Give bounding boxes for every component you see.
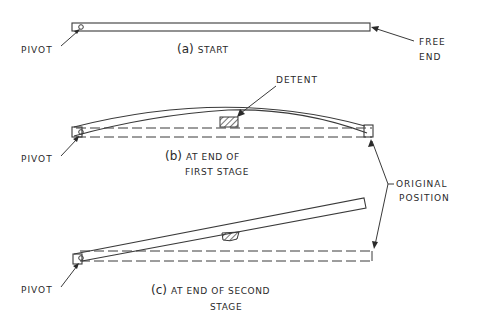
- pivot-label-b: PIVOT: [21, 153, 53, 165]
- caption-b-line2: FIRST STAGE: [185, 166, 249, 179]
- caption-b-text: AT END OF: [186, 152, 240, 162]
- caption-c-tag: (c): [151, 283, 167, 297]
- pivot-leader-a: [61, 31, 78, 46]
- detent-label: DETENT: [276, 74, 318, 86]
- caption-c-text: AT END OF SECOND: [171, 286, 270, 296]
- pivot-leader-b: [61, 139, 77, 156]
- diagram-drawing: [0, 0, 483, 324]
- caption-b-tag: (b): [165, 149, 182, 163]
- pivot-label-a: PIVOT: [21, 44, 53, 56]
- pivot-leader-c: [61, 266, 77, 287]
- free-end-leader: [374, 28, 414, 41]
- pivot-pin-a: [79, 25, 84, 30]
- caption-c-line2: STAGE: [210, 301, 242, 314]
- caption-a-text: START: [198, 45, 229, 55]
- caption-c-line1: (c)AT END OF SECOND: [151, 284, 270, 298]
- panel-b-drawing: [61, 86, 373, 156]
- caption-a: (a)START: [177, 43, 228, 57]
- original-position-label-line1: ORIGINAL: [396, 178, 448, 190]
- panel-a-drawing: [61, 23, 414, 46]
- rotated-bar: [74, 198, 366, 261]
- panel-c-drawing: [61, 198, 372, 287]
- detent-c: [222, 232, 239, 241]
- free-end-label-line2: END: [419, 51, 441, 63]
- caption-a-tag: (a): [177, 42, 194, 56]
- original-position-leaders: [368, 139, 394, 249]
- bar-start: [72, 23, 370, 31]
- detent-b: [220, 117, 238, 127]
- caption-b-line1: (b)AT END OF: [165, 150, 240, 164]
- diagram-canvas: PIVOT FREE END (a)START DETENT PIVOT (b)…: [0, 0, 483, 324]
- free-end-label-line1: FREE: [419, 36, 446, 48]
- pivot-label-c: PIVOT: [21, 284, 53, 296]
- original-position-label-line2: POSITION: [399, 192, 450, 204]
